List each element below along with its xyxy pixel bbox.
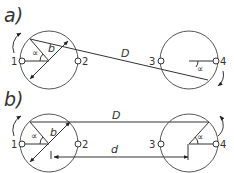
radius-label-b: b (48, 42, 55, 55)
left-angle-label-b: ∝ (31, 131, 37, 141)
point-2-label: 2 (82, 56, 88, 67)
point-4-label: 4 (220, 56, 226, 67)
panel-b-label: b) (4, 88, 23, 110)
point-3-marker-b (158, 141, 164, 147)
point-4-marker-b (213, 141, 219, 147)
radius-label-b-b: b (50, 126, 57, 139)
point-1-label-b: 1 (11, 139, 17, 150)
point-1-marker (19, 58, 25, 64)
right-pulley-circle (160, 31, 218, 89)
panel-a: a) ∝ b D 1 2 ∝ 3 4 (4, 4, 226, 89)
rotation-arrow-left-b (13, 116, 21, 136)
diagram-canvas: a) ∝ b D 1 2 ∝ 3 4 b) (0, 0, 234, 173)
point-1-marker-b (19, 141, 25, 147)
point-3-label: 3 (149, 56, 155, 67)
distance-label-d: d (111, 143, 119, 156)
point-2-marker-b (75, 141, 81, 147)
distance-label-D-b: D (112, 109, 120, 122)
point-1-label: 1 (11, 56, 17, 67)
panel-a-label: a) (4, 4, 23, 26)
point-3-marker (158, 58, 164, 64)
point-4-label-b: 4 (220, 139, 226, 150)
point-2-label-b: 2 (82, 139, 88, 150)
right-angle-label-b: ∝ (197, 132, 203, 142)
left-angle-label: ∝ (32, 48, 38, 58)
point-2-marker (75, 58, 81, 64)
distance-line-D (30, 39, 208, 80)
right-angle-label: ∝ (197, 64, 203, 74)
left-angle-arc (40, 54, 43, 61)
distance-label-D: D (121, 47, 129, 60)
point-3-label-b: 3 (149, 139, 155, 150)
point-4-marker (213, 58, 219, 64)
rotation-arrow-right (218, 71, 224, 86)
right-pulley-circle-b (160, 114, 218, 172)
panel-b: b) ∝ b D d 1 2 ∝ 3 4 (4, 88, 226, 172)
rotation-arrow-right-b (218, 116, 223, 136)
left-angle-arc-b (40, 137, 43, 144)
rotation-arrow-left (13, 33, 21, 53)
